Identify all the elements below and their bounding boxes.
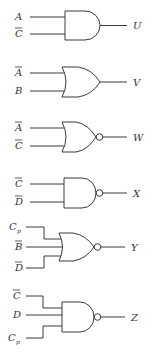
label-u-in1: C [15,28,23,39]
label-z-in0: C [13,290,21,301]
nand-gate-symbol [64,178,96,208]
label-w-in1: C [15,140,23,151]
inversion-bubble [96,134,103,141]
gate-z-nand: C D C p Z [8,290,139,346]
label-z-out: Z [130,312,139,323]
label-u-in0: A [14,11,22,22]
label-y-in0-sub: p [17,227,21,235]
label-x-in1: D [14,196,23,207]
nand-gate-symbol [62,302,94,332]
label-z-in1: D [12,309,21,320]
gate-u-and: A C U [14,11,142,40]
label-v-in1: B [14,85,22,96]
label-y-in1: B [14,241,22,252]
label-y-in0: C [9,221,17,232]
inversion-bubble [94,314,101,321]
wire-y-in2 [26,256,62,268]
label-w-out: W [133,132,144,143]
and-gate-symbol [65,11,100,40]
inversion-bubble [94,244,101,251]
label-x-out: X [132,188,141,199]
nor-gate-symbol [62,122,96,152]
label-v-out: V [133,77,142,88]
label-y-in2: D [14,262,23,273]
gate-y-nor: C p B D Y [9,221,139,273]
wire-z-in0 [26,296,62,308]
label-z-in2-sub: p [16,338,20,346]
logic-gates-diagram: A C U A B V A C W C D X [0,0,153,355]
label-v-in0: A [14,67,22,78]
label-y-out: Y [131,242,139,253]
inversion-bubble [96,190,103,197]
gate-v-or: A B V [14,67,142,97]
label-w-in0: A [14,122,22,133]
gate-w-nor: A C W [14,122,144,152]
label-u-out: U [133,20,142,31]
gate-x-nand: C D X [14,178,141,208]
wire-y-in0 [26,227,62,239]
label-z-in2: C [8,332,16,343]
label-x-in0: C [15,178,23,189]
or-gate-symbol [62,67,100,97]
wire-z-in2 [26,326,62,338]
nor-gate-symbol [59,233,94,261]
